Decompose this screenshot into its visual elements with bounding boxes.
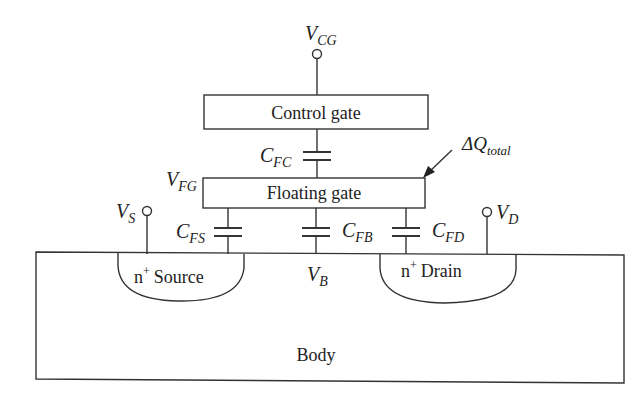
drain-label: n+Drain	[401, 258, 462, 281]
cfd-label: CFD	[432, 219, 464, 245]
vs-label: VS	[116, 200, 135, 226]
cfb-label: CFB	[342, 219, 373, 245]
vb-label: VB	[307, 263, 328, 289]
cfs-label: CFS	[176, 220, 205, 246]
vcg-terminal	[313, 50, 322, 59]
vd-label: VD	[496, 201, 518, 227]
cfc-label: CFC	[260, 144, 292, 170]
control-gate-label: Control gate	[271, 103, 360, 123]
floating-gate-label: Floating gate	[267, 183, 361, 203]
body-label: Body	[296, 345, 335, 365]
source-label: n+Source	[134, 264, 204, 287]
vcg-label: VCG	[305, 22, 337, 48]
vfg-label: VFG	[166, 168, 197, 194]
diagram-canvas: VCG Control gate CFC ΔQtotal VFG Floatin…	[0, 0, 629, 401]
delta-q-label: ΔQtotal	[461, 133, 511, 158]
